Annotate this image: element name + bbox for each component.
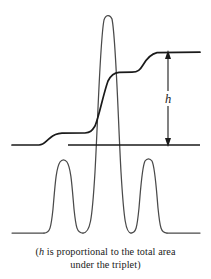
spectrum-plot: h — [0, 0, 211, 279]
h-label-text: h — [165, 92, 171, 106]
caption-line-2: under the triplet) — [0, 259, 211, 272]
caption-line-1-rest: is proportional to the total area — [44, 246, 175, 257]
caption-line-1: (h is proportional to the total area — [0, 246, 211, 259]
triplet-peak-center — [83, 16, 131, 233]
nmr-integration-figure: h (h is proportional to the total area u… — [0, 0, 211, 279]
triplet-peak-left — [44, 160, 83, 233]
h-label: h — [161, 91, 175, 106]
triplet-peak-right — [131, 159, 167, 233]
h-arrow-head-top — [165, 50, 171, 59]
figure-caption: (h is proportional to the total area und… — [0, 246, 211, 271]
